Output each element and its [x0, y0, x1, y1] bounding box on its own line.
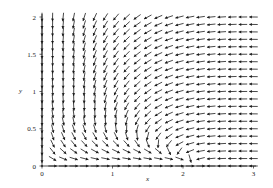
arrow-head	[239, 120, 242, 123]
arrow-head	[104, 130, 107, 133]
arrow-head	[228, 135, 231, 138]
arrow-head	[239, 53, 242, 56]
arrow-head	[86, 158, 89, 161]
arrow-head	[239, 75, 242, 78]
arrow-head	[136, 138, 139, 141]
arrow-head	[175, 31, 178, 34]
arrow-head	[186, 23, 189, 26]
arrow-head	[207, 23, 210, 26]
arrow-head	[249, 157, 252, 160]
arrow-head	[249, 75, 252, 78]
arrow-head	[175, 91, 178, 94]
arrow-head	[93, 115, 96, 118]
arrow-head	[249, 68, 252, 71]
arrow-head	[218, 38, 221, 41]
arrow-head	[175, 23, 178, 26]
arrow-head	[72, 108, 75, 111]
arrow-head	[72, 101, 75, 104]
arrow-head	[239, 23, 242, 26]
arrow-head	[186, 53, 189, 56]
arrow-head	[73, 123, 76, 126]
arrow-head	[228, 16, 231, 19]
arrow-head	[186, 46, 189, 49]
arrow-head	[207, 16, 210, 19]
arrow-head	[61, 18, 64, 21]
arrow-head	[186, 61, 189, 64]
arrow-head	[207, 105, 210, 108]
arrow-head	[218, 120, 221, 123]
y-tick-label: 0	[33, 163, 37, 171]
arrow-head	[207, 142, 210, 145]
arrow-head	[186, 83, 189, 86]
arrow-field	[41, 13, 258, 168]
arrow-head	[175, 46, 178, 49]
arrow-head	[239, 83, 242, 86]
arrow-head	[249, 135, 252, 138]
arrow-head	[249, 83, 252, 86]
y-tick-label: 2	[33, 14, 37, 22]
arrow-head	[218, 90, 221, 93]
arrow-head	[249, 105, 252, 108]
arrow-head	[239, 90, 242, 93]
arrow-head	[62, 123, 65, 126]
arrow-head	[83, 101, 86, 104]
arrow-head	[51, 71, 54, 74]
y-ticks: 00.511.52	[27, 14, 42, 171]
arrow-head	[218, 60, 221, 63]
arrow-head	[51, 63, 54, 66]
arrow-head	[186, 135, 189, 138]
arrow-head	[62, 101, 65, 104]
arrow-head	[228, 53, 231, 56]
arrow-head	[218, 83, 221, 86]
arrow-head	[51, 86, 54, 89]
arrow-head	[218, 68, 221, 71]
arrow-head	[175, 61, 178, 64]
arrow-head	[239, 60, 242, 63]
arrow-head	[228, 127, 231, 130]
arrow-head	[62, 86, 65, 89]
arrow-head	[228, 23, 231, 26]
arrow-head	[52, 130, 55, 133]
arrow-head	[249, 30, 252, 33]
arrow-head	[228, 120, 231, 123]
arrow-head	[51, 19, 54, 22]
arrow-head	[239, 97, 242, 100]
arrow-head	[83, 93, 86, 96]
x-axis-label: x	[145, 175, 150, 183]
arrow-head	[72, 93, 75, 96]
arrow-head	[239, 135, 242, 138]
arrow-head	[218, 16, 221, 19]
arrow-head	[72, 78, 75, 81]
arrow-head	[62, 56, 65, 59]
arrow-head	[51, 78, 54, 81]
arrow-head	[249, 142, 252, 145]
x-tick-label: 3	[252, 170, 256, 178]
arrow-head	[249, 38, 252, 41]
arrow-head	[218, 142, 221, 145]
arrow-head	[186, 31, 189, 34]
arrow-head	[62, 93, 65, 96]
arrow-head	[228, 157, 231, 160]
arrow-head	[186, 90, 189, 93]
x-tick-label: 0	[40, 170, 44, 178]
arrow-head	[228, 83, 231, 86]
arrow-head	[249, 120, 252, 123]
arrow-head	[249, 15, 252, 18]
arrow-head	[218, 23, 221, 26]
arrow-head	[207, 113, 210, 116]
arrow-head	[249, 53, 252, 56]
arrow-head	[207, 31, 210, 34]
arrow-head	[175, 76, 178, 79]
arrow-head	[228, 90, 231, 93]
arrow-head	[218, 157, 221, 160]
arrow-head	[239, 68, 242, 71]
arrow-head	[175, 83, 178, 86]
x-tick-label: 1	[111, 170, 115, 178]
arrow-head	[239, 142, 242, 145]
arrow-head	[207, 45, 210, 48]
arrow-head	[207, 157, 210, 160]
arrow-head	[207, 135, 210, 138]
arrow-head	[249, 60, 252, 63]
arrow-head	[239, 127, 242, 130]
arrow-head	[207, 38, 210, 41]
